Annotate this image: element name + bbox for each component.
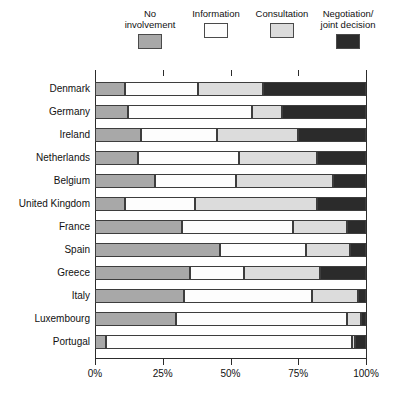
legend-label: No involvement <box>125 8 176 30</box>
bar-segment <box>282 105 366 119</box>
category-label: United Kingdom <box>0 197 90 211</box>
x-axis-tick-label: 75% <box>288 368 308 379</box>
bar-segment <box>361 312 366 326</box>
bar-row <box>95 197 366 211</box>
bar-segment <box>95 312 176 326</box>
bars-container <box>95 76 367 358</box>
bar-row <box>95 82 366 96</box>
bar-segment <box>298 128 366 142</box>
legend-swatch-consultation <box>270 23 294 38</box>
bar-segment <box>317 151 366 165</box>
bar-segment <box>182 220 293 234</box>
bar-segment <box>347 220 366 234</box>
legend-swatch-negotiation <box>336 34 360 49</box>
category-label: Denmark <box>0 82 90 96</box>
x-axis-tick <box>95 359 96 365</box>
x-axis-tick <box>231 359 232 365</box>
bar-segment <box>176 312 347 326</box>
bar-segment <box>244 266 320 280</box>
bar-segment <box>95 243 220 257</box>
bar-segment <box>306 243 349 257</box>
bar-segment <box>95 174 155 188</box>
bar-segment <box>125 197 195 211</box>
x-axis-tick-label: 25% <box>153 368 173 379</box>
bar-segment <box>95 128 141 142</box>
legend-item-negotiation: Negotiation/ joint decision <box>316 8 380 49</box>
bar-segment <box>220 243 307 257</box>
bar-segment <box>95 220 182 234</box>
bar-row <box>95 266 366 280</box>
bar-segment <box>239 151 318 165</box>
bar-segment <box>125 82 198 96</box>
bar-row <box>95 312 366 326</box>
bar-segment <box>195 197 317 211</box>
bar-segment <box>217 128 298 142</box>
bar-segment <box>128 105 253 119</box>
category-label: Portugal <box>0 335 90 349</box>
bar-segment <box>312 289 358 303</box>
legend-swatch-information <box>204 23 228 38</box>
bar-segment <box>95 289 184 303</box>
bar-segment <box>355 335 366 349</box>
legend-swatch-no-involvement <box>138 34 162 49</box>
bar-segment <box>95 151 138 165</box>
bar-segment <box>317 197 366 211</box>
x-axis-tick <box>298 359 299 365</box>
bar-segment <box>95 335 106 349</box>
legend-item-consultation: Consultation <box>250 8 314 38</box>
bar-segment <box>350 243 366 257</box>
bar-segment <box>138 151 238 165</box>
bar-row <box>95 220 366 234</box>
bar-row <box>95 128 366 142</box>
category-label: Italy <box>0 289 90 303</box>
x-axis-tick <box>366 359 367 365</box>
category-label: Luxembourg <box>0 312 90 326</box>
category-label: Ireland <box>0 128 90 142</box>
category-label: Netherlands <box>0 151 90 165</box>
bar-segment <box>252 105 282 119</box>
legend-label: Information <box>192 8 240 19</box>
bar-segment <box>95 82 125 96</box>
bar-segment <box>320 266 366 280</box>
bar-segment <box>141 128 217 142</box>
chart-legend: No involvement Information Consultation … <box>118 8 380 70</box>
bar-row <box>95 243 366 257</box>
bar-segment <box>184 289 311 303</box>
bar-segment <box>293 220 347 234</box>
x-axis-tick-label: 50% <box>220 368 240 379</box>
legend-item-information: Information <box>184 8 248 38</box>
x-axis-tick-labels: 0%25%50%75%100% <box>60 368 390 384</box>
bar-row <box>95 151 366 165</box>
legend-label: Consultation <box>256 8 309 19</box>
bar-segment <box>358 289 366 303</box>
bar-segment <box>198 82 263 96</box>
legend-label: Negotiation/ joint decision <box>321 8 376 30</box>
bar-segment <box>95 105 128 119</box>
bar-segment <box>263 82 366 96</box>
bar-row <box>95 105 366 119</box>
category-axis-labels: DenmarkGermanyIrelandNetherlandsBelgiumU… <box>0 76 90 358</box>
x-axis-tick-label: 0% <box>88 368 102 379</box>
x-axis-tick-label: 100% <box>353 368 379 379</box>
x-axis-tick <box>163 359 164 365</box>
bar-segment <box>106 335 353 349</box>
bar-segment <box>333 174 366 188</box>
bar-segment <box>155 174 236 188</box>
x-axis-ticks <box>95 359 367 367</box>
category-label: France <box>0 220 90 234</box>
bar-segment <box>95 266 190 280</box>
bar-row <box>95 174 366 188</box>
bar-row <box>95 335 366 349</box>
category-label: Greece <box>0 266 90 280</box>
category-label: Germany <box>0 105 90 119</box>
bar-segment <box>236 174 334 188</box>
category-label: Spain <box>0 243 90 257</box>
bar-row <box>95 289 366 303</box>
bar-segment <box>95 197 125 211</box>
bar-segment <box>347 312 361 326</box>
category-label: Belgium <box>0 174 90 188</box>
bar-segment <box>190 266 244 280</box>
legend-item-no-involvement: No involvement <box>118 8 182 49</box>
stacked-bar-chart: No involvement Information Consultation … <box>0 0 393 398</box>
